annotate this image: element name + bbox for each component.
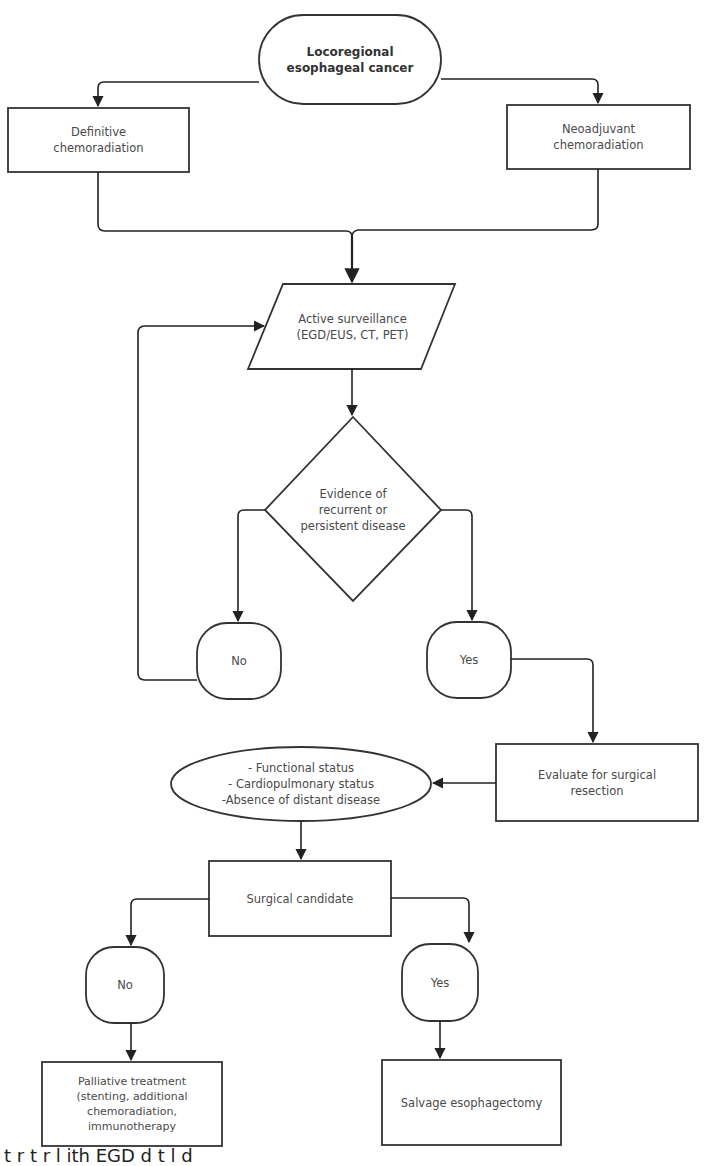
edge-neoadjuvant-join: [352, 169, 598, 237]
definitive-node-shape: [8, 108, 189, 172]
criteria-node-shape: [171, 747, 431, 821]
surveillance-node-shape: [248, 284, 455, 369]
no2-node-shape: [86, 947, 164, 1023]
edge-yes1-evaluate: [511, 659, 593, 742]
edge-definitive-join: [98, 172, 352, 237]
salvage-node-shape: [382, 1060, 561, 1145]
cut-off-caption-text: t r t r l ith EGD d t l d: [0, 1146, 706, 1166]
start-node-shape: [259, 15, 441, 104]
edge-start-definitive: [98, 82, 259, 106]
edge-evidence-yes1: [441, 510, 472, 620]
neoadjuvant-node-shape: [507, 105, 690, 169]
edge-candidate-no2: [131, 899, 209, 945]
candidate-node-shape: [209, 861, 391, 936]
evidence-node-shape: [265, 417, 441, 601]
edge-start-neoadjuvant: [441, 79, 598, 103]
evaluate-node-shape: [496, 744, 698, 821]
yes2-node-shape: [402, 944, 478, 1021]
no1-node-shape: [197, 623, 281, 699]
yes1-node-shape: [427, 622, 511, 698]
palliative-node-shape: [42, 1062, 222, 1146]
edge-candidate-yes2: [391, 898, 469, 942]
edge-evidence-no1: [238, 510, 265, 621]
